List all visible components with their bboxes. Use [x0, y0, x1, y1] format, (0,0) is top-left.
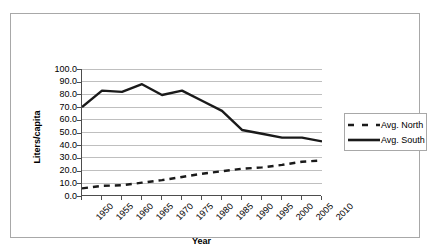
x-tick-label: 1955	[114, 201, 135, 222]
y-axis-title-text: Liters/capita	[32, 110, 42, 163]
plot-area	[81, 69, 321, 196]
x-tick-mark	[261, 196, 262, 200]
y-axis-tick-labels: 100.090.080.070.060.050.040.030.020.010.…	[43, 69, 77, 196]
x-tick-label: 1980	[214, 201, 235, 222]
legend-swatch-solid-icon	[347, 134, 381, 146]
y-tick-label: 90.0	[43, 77, 77, 86]
legend-item[interactable]: Avg. North	[347, 117, 424, 132]
y-tick-label: 10.0	[43, 179, 77, 188]
data-series-group	[82, 84, 322, 188]
x-tick-label: 1995	[274, 201, 295, 222]
chart-frame: Liters/capita 100.090.080.070.060.050.04…	[10, 13, 420, 238]
x-tick-mark	[241, 196, 242, 200]
y-tick-label: 50.0	[43, 128, 77, 137]
y-tick-label: 70.0	[43, 103, 77, 112]
x-tick-mark	[201, 196, 202, 200]
legend-swatch-dashed-icon	[347, 119, 381, 131]
y-tick-label: 100.0	[43, 65, 77, 74]
x-tick-mark	[321, 196, 322, 200]
legend-item[interactable]: Avg. South	[347, 132, 424, 147]
chart-container: Liters/capita 100.090.080.070.060.050.04…	[0, 0, 430, 250]
x-tick-label: 1990	[254, 201, 275, 222]
x-axis-title: Year	[81, 236, 322, 246]
y-tick-label: 30.0	[43, 153, 77, 162]
x-tick-mark	[81, 196, 82, 200]
x-tick-mark	[281, 196, 282, 200]
gridlines	[82, 69, 322, 196]
x-axis-tick-labels: 1950195519601965197019751980198519901995…	[81, 201, 322, 233]
x-tick-label: 1970	[174, 201, 195, 222]
x-tick-mark	[161, 196, 162, 200]
chart-legend: Avg. NorthAvg. South	[344, 113, 427, 151]
legend-label: Avg. North	[381, 120, 423, 130]
plot-svg	[82, 69, 322, 196]
y-tick-label: 20.0	[43, 166, 77, 175]
x-tick-label: 1960	[134, 201, 155, 222]
y-tick-label: 0.0	[43, 192, 77, 201]
x-tick-label: 1975	[194, 201, 215, 222]
series-line-1	[82, 160, 322, 188]
x-tick-mark	[101, 196, 102, 200]
x-tick-label: 1950	[94, 201, 115, 222]
x-tick-label: 2000	[294, 201, 315, 222]
y-tick-label: 40.0	[43, 141, 77, 150]
x-tick-label: 1985	[234, 201, 255, 222]
x-tick-mark	[121, 196, 122, 200]
x-tick-mark	[221, 196, 222, 200]
x-tick-mark	[141, 196, 142, 200]
legend-label: Avg. South	[381, 135, 425, 145]
y-tick-label: 80.0	[43, 90, 77, 99]
x-tick-mark	[301, 196, 302, 200]
x-tick-label: 2005	[314, 201, 335, 222]
x-tick-label: 1965	[154, 201, 175, 222]
y-tick-label: 60.0	[43, 115, 77, 124]
x-tick-mark	[181, 196, 182, 200]
x-tick-label: 2010	[334, 201, 355, 222]
